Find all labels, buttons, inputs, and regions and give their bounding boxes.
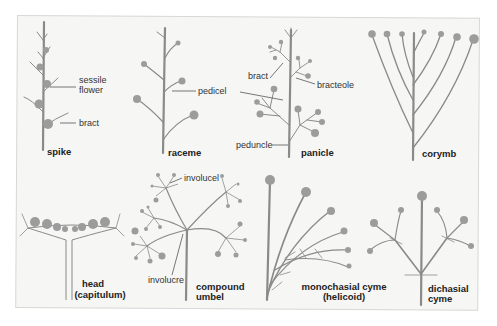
type-name-cyme: cyme (428, 293, 452, 304)
type-name-head: head (82, 278, 104, 289)
type-name-panicle: panicle (301, 147, 334, 158)
label-bract-panicle: bract (248, 71, 269, 81)
label-involucre: involucre (148, 275, 184, 285)
label-bract-spike: bract (79, 118, 100, 128)
type-name-umbel: umbel (196, 291, 224, 302)
spike-illustration (24, 22, 68, 150)
label-flower: flower (79, 85, 103, 95)
label-sessile: sessile (79, 75, 107, 85)
type-name-helicoid: (helicoid) (323, 291, 365, 302)
inflorescence-diagram: sessile flower bract spike pedicel racem… (0, 0, 497, 326)
corymb-illustration (368, 30, 479, 161)
raceme-illustration (133, 28, 199, 153)
label-peduncle: peduncle (236, 140, 273, 150)
type-name-corymb: corymb (422, 148, 457, 159)
label-involucel: involucel (184, 173, 219, 183)
head-illustration (20, 214, 124, 300)
type-name-capitulum: (capitulum) (74, 289, 125, 300)
label-bracteole: bracteole (317, 80, 354, 90)
type-name-spike: spike (47, 146, 71, 157)
panicle-illustration (254, 28, 325, 157)
type-name-raceme: raceme (168, 147, 201, 158)
label-pedicel: pedicel (198, 86, 227, 96)
